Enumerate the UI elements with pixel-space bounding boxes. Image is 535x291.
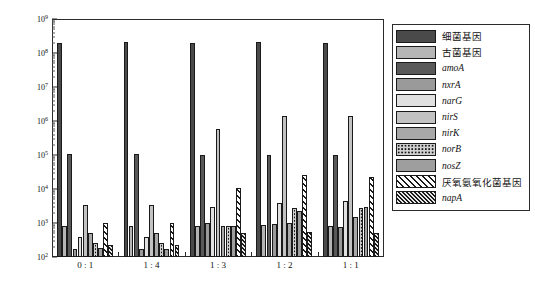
bar [359,208,364,257]
bar [307,232,312,257]
legend-label: nirS [442,112,458,122]
bar [338,227,343,257]
bar [124,42,129,257]
bar-group [118,19,184,257]
legend-item[interactable]: 细菌基因 [396,28,526,44]
legend-item[interactable]: 古菌基因 [396,44,526,60]
legend-swatch [396,46,436,59]
legend-label: nxrA [442,80,460,90]
y-tick-label: 102 [37,252,48,263]
bar [78,237,83,257]
bar [144,237,149,257]
bar [210,207,215,257]
legend-item[interactable]: nosZ [396,158,526,174]
legend-item[interactable]: nirS [396,109,526,125]
y-tick-label: 105 [37,150,48,161]
bar [108,245,113,257]
bar [374,233,379,257]
bar [282,116,287,257]
chart-figure: 基因丰度(拷贝以数/g) 109108107106105104103102 0 … [0,0,535,291]
x-tick-mark [251,252,252,257]
x-tick-label: 0 : 1 [77,260,93,270]
bar [175,245,180,257]
x-tick-label: 1 : 3 [210,260,226,270]
bar [103,223,108,257]
legend-swatch [396,30,436,43]
bar [57,43,62,257]
legend-label: amoA [442,63,464,73]
bar [267,155,272,257]
bar [93,243,98,257]
legend-swatch [396,191,436,204]
x-tick-mark [185,252,186,257]
bar [216,129,221,257]
bar [226,226,231,257]
y-tick-label: 104 [37,184,48,195]
legend-label: 古菌基因 [442,45,482,59]
bar [164,249,169,257]
bar [98,248,103,257]
legend-item[interactable]: narG [396,93,526,109]
bar [190,43,195,257]
bar [154,233,159,257]
bar [292,208,297,257]
bar [170,223,175,257]
y-tick-label: 109 [37,14,48,25]
bar [287,223,292,257]
legend-swatch [396,94,436,107]
bar [67,154,72,257]
y-tick-label: 103 [37,218,48,229]
legend-swatch [396,62,436,75]
bar-group [185,19,251,257]
legend-label: napA [442,193,462,203]
legend-swatch [396,127,436,140]
bar [272,224,277,257]
bar [277,203,282,257]
legend-item[interactable]: amoA [396,60,526,76]
legend-label: 细菌基因 [442,29,482,43]
legend-item[interactable]: nirK [396,125,526,141]
y-tick-label: 107 [37,82,48,93]
bar [159,243,164,257]
bar [343,201,348,257]
bar [62,226,67,257]
legend-label: narG [442,96,462,106]
bar [348,116,353,257]
bar [328,226,333,257]
bar-group [318,19,384,257]
bar [83,205,88,257]
legend-item[interactable]: 厌氧氨氧化菌基因 [396,174,526,190]
y-tick-label: 106 [37,116,48,127]
legend-item[interactable]: norB [396,141,526,157]
bar [139,249,144,257]
bar [353,217,358,257]
bar [134,154,139,257]
x-tick-mark [318,252,319,257]
bar [369,177,374,257]
bar [129,226,134,257]
x-tick-mark [118,252,119,257]
bar [261,225,266,257]
bar [88,233,93,257]
legend-item[interactable]: nxrA [396,77,526,93]
bar [364,207,369,257]
legend-swatch [396,159,436,172]
legend-swatch [396,111,436,124]
bar-group [52,19,118,257]
legend-swatch [396,143,436,156]
legend-label: nosZ [442,161,460,171]
x-tick-label: 1 : 1 [343,260,359,270]
bar-group [251,19,317,257]
bar [302,175,307,257]
bar [236,188,241,257]
bar [73,249,78,257]
legend-label: nirK [442,128,459,138]
y-tick-label: 108 [37,48,48,59]
bar [200,155,205,257]
legend-item[interactable]: napA [396,190,526,206]
plot-area: 109108107106105104103102 0 : 11 : 41 : 3… [52,19,384,257]
chart-legend: 细菌基因古菌基因amoAnxrAnarGnirSnirKnorBnosZ厌氧氨氧… [392,24,530,211]
y-axis-title: 基因丰度(拷贝以数/g) [6,0,26,20]
legend-label: norB [442,144,461,154]
x-tick-label: 1 : 4 [144,260,160,270]
